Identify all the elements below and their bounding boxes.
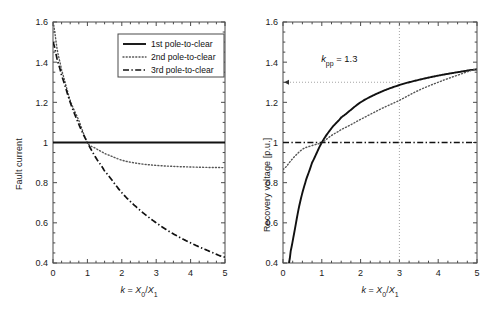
panel-fault-current: Fault current 0123450.40.60.811.21.41.6k… bbox=[0, 0, 249, 311]
plot-area-left: 0123450.40.60.811.21.41.6k = X0/X11st po… bbox=[0, 0, 249, 311]
x-tick-label: 3 bbox=[154, 268, 159, 278]
x-tick-label: 3 bbox=[397, 268, 402, 278]
y-tick-label: 1.2 bbox=[265, 98, 278, 108]
series-curve-2 bbox=[283, 69, 477, 169]
y-tick-label: 1 bbox=[43, 138, 48, 148]
y-tick-label: 0.6 bbox=[35, 218, 48, 228]
y-tick-label: 1 bbox=[273, 138, 278, 148]
y-axis-label-left: Fault current bbox=[14, 138, 24, 190]
x-tick-label: 1 bbox=[319, 268, 324, 278]
legend-label-2: 2nd pole-to-clear bbox=[151, 52, 216, 62]
x-tick-label: 0 bbox=[50, 268, 55, 278]
x-tick-label: 2 bbox=[119, 268, 124, 278]
y-tick-label: 1.2 bbox=[35, 98, 48, 108]
legend-label-1: 1st pole-to-clear bbox=[151, 39, 213, 49]
x-tick-label: 4 bbox=[436, 268, 441, 278]
x-tick-label: 0 bbox=[280, 268, 285, 278]
y-axis-label-right: Recovery voltage [p.u.] bbox=[262, 138, 272, 232]
annotation-kpp: kpp = 1.3 bbox=[321, 53, 357, 68]
y-tick-label: 0.4 bbox=[265, 258, 278, 268]
y-tick-label: 0.8 bbox=[35, 178, 48, 188]
x-axis-label: k = X0/X1 bbox=[120, 285, 157, 298]
figure-two-panel-plot: Fault current 0123450.40.60.811.21.41.6k… bbox=[0, 0, 497, 311]
legend-label-3: 3rd pole-to-clear bbox=[151, 65, 214, 75]
y-tick-label: 1.6 bbox=[265, 17, 278, 27]
y-tick-label: 1.4 bbox=[265, 58, 278, 68]
x-tick-label: 4 bbox=[188, 268, 193, 278]
x-tick-label: 5 bbox=[474, 268, 479, 278]
x-tick-label: 2 bbox=[358, 268, 363, 278]
y-tick-label: 1.6 bbox=[35, 17, 48, 27]
x-tick-label: 1 bbox=[85, 268, 90, 278]
plot-area-right: 0123450.40.60.811.21.41.6k = X0/X1kpp = … bbox=[248, 0, 497, 311]
x-tick-label: 5 bbox=[222, 268, 227, 278]
annotation-arrow-head bbox=[284, 80, 289, 85]
series-curve-1 bbox=[289, 69, 477, 263]
x-axis-label: k = X0/X1 bbox=[361, 285, 398, 298]
y-tick-label: 0.4 bbox=[35, 258, 48, 268]
y-tick-label: 1.4 bbox=[35, 58, 48, 68]
panel-recovery-voltage: Recovery voltage [p.u.] 0123450.40.60.81… bbox=[248, 0, 497, 311]
